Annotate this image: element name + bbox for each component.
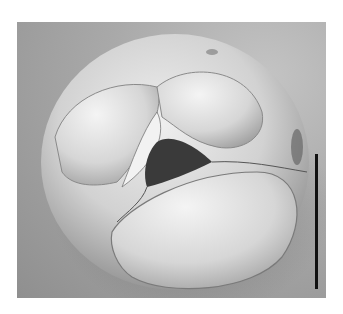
debris xyxy=(206,49,218,55)
sem-micrograph xyxy=(17,22,326,298)
foraminifer-specimen xyxy=(17,22,326,298)
debris xyxy=(291,129,303,165)
scale-bar xyxy=(315,154,318,289)
